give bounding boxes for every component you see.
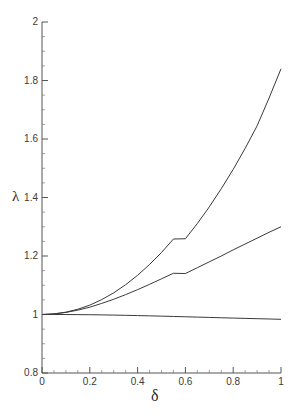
x-axis-title: δ xyxy=(151,388,159,403)
y-tick-label: 1.2 xyxy=(8,251,38,261)
x-tick-label: 0 xyxy=(27,377,57,387)
x-tick-label: 0.6 xyxy=(170,377,200,387)
y-tick-label: 1.6 xyxy=(8,134,38,144)
x-tick-label: 1 xyxy=(266,377,296,387)
x-tick-label: 0.2 xyxy=(75,377,105,387)
y-axis-title: λ xyxy=(12,189,19,204)
series-lower-curve xyxy=(42,315,281,320)
x-tick-label: 0.4 xyxy=(123,377,153,387)
y-tick-label: 1.8 xyxy=(8,76,38,86)
series-middle-curve xyxy=(42,227,281,315)
series-upper-curve xyxy=(42,69,281,315)
y-tick-label: 2 xyxy=(8,17,38,27)
axis-lines xyxy=(42,22,281,373)
y-tick-label: 1 xyxy=(8,310,38,320)
y-axis-major-ticks xyxy=(42,22,48,373)
data-series-group xyxy=(42,69,281,320)
x-tick-label: 0.8 xyxy=(218,377,248,387)
chart-figure: 21.81.61.41.210.8 00.20.40.60.81 λ δ xyxy=(0,0,298,420)
plot-canvas xyxy=(0,0,298,420)
